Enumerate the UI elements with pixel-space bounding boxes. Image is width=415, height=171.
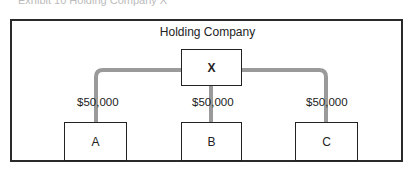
subsidiary-box-a: A bbox=[64, 122, 127, 161]
parent-company-label: X bbox=[207, 61, 215, 75]
subsidiary-label-a: A bbox=[91, 135, 99, 149]
parent-company-box: X bbox=[181, 49, 242, 86]
amount-label-b: $50,000 bbox=[192, 96, 234, 108]
amount-label-c: $50,000 bbox=[306, 96, 348, 108]
subsidiary-label-c: C bbox=[322, 135, 331, 149]
subsidiary-label-b: B bbox=[207, 135, 215, 149]
amount-label-a: $50,000 bbox=[77, 96, 119, 108]
subsidiary-box-b: B bbox=[181, 122, 242, 161]
subsidiary-box-c: C bbox=[295, 122, 358, 161]
